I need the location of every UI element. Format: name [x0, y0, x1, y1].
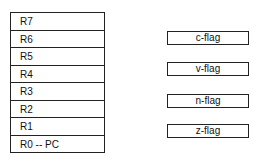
v-flag-box: v-flag — [167, 62, 249, 76]
register-r1: R1 — [11, 118, 104, 136]
register-r4: R4 — [11, 66, 104, 84]
register-r5: R5 — [11, 48, 104, 66]
c-flag-box: c-flag — [167, 31, 249, 45]
register-r6: R6 — [11, 31, 104, 49]
z-flag-box: z-flag — [167, 124, 249, 138]
register-r0-pc: R0 -- PC — [11, 136, 104, 154]
register-r7: R7 — [11, 13, 104, 31]
register-r3: R3 — [11, 83, 104, 101]
register-r2: R2 — [11, 101, 104, 119]
n-flag-box: n-flag — [167, 94, 249, 108]
register-file: R7 R6 R5 R4 R3 R2 R1 R0 -- PC — [10, 12, 105, 153]
